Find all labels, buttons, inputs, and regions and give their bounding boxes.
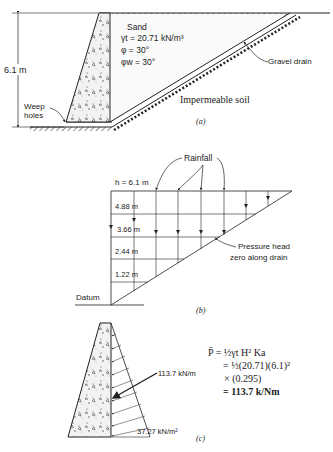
panel-b: Rainfall h = 6.1 m 4.88 m 3.66 m 2.44 m … <box>75 153 292 315</box>
panel-a: 6.1 m Sand γt = 20.71 kN/m³ φ = 30° φw =… <box>3 13 330 131</box>
equation-line-2: = ½(20.71)(6.1)² <box>223 360 290 372</box>
phi-w-label: φw = 30° <box>121 57 155 67</box>
rain-label: Rainfall <box>184 153 212 163</box>
base-pressure-label: 37.27 kN/m² <box>137 427 178 436</box>
height-label: 6.1 m <box>4 65 27 75</box>
retaining-wall <box>68 323 111 437</box>
retaining-wall-diagram: 6.1 m Sand γt = 20.71 kN/m³ φ = 30° φw =… <box>0 0 333 452</box>
drain-label: Gravel drain <box>268 57 312 66</box>
caption-a: (a) <box>196 117 206 126</box>
head-level-label: 4.88 m <box>115 202 138 211</box>
head-level-label: 3.66 m <box>117 225 140 234</box>
equation-line-1: P̄ = ½γt H² Ka <box>208 347 266 358</box>
resultant-label: 113.7 kN/m <box>158 369 196 378</box>
rain-arrow <box>156 158 182 190</box>
gamma-label: γt = 20.71 kN/m³ <box>121 33 184 43</box>
weep-label-1: Weep <box>24 102 45 111</box>
caption-c: (c) <box>196 434 205 443</box>
ground-hatch-bottom <box>30 127 112 131</box>
head-level-label: 1.22 m <box>115 270 138 279</box>
caption-b: (b) <box>196 306 206 315</box>
pressure-label-1: Pressure head <box>238 242 290 251</box>
head-level-label: 2.44 m <box>115 247 138 256</box>
datum-label: Datum <box>76 293 100 302</box>
soil-label: Impermeable soil <box>180 94 250 105</box>
equation-line-3: × (0.295) <box>224 373 261 385</box>
pressure-arrows <box>112 334 149 436</box>
panel-c: 113.7 kN/m 37.27 kN/m² (c) P̄ = ½γt H² K… <box>68 323 290 443</box>
top-head-label: h = 6.1 m <box>115 178 149 187</box>
rain-arrow <box>201 165 203 190</box>
retaining-wall <box>66 13 110 122</box>
rain-arrow <box>178 165 203 190</box>
equation-line-4: = 113.7 k/Nm <box>223 386 280 397</box>
pressure-label-2: zero along drain <box>230 253 287 262</box>
weep-label-2: holes <box>24 111 43 120</box>
phi-label: φ = 30° <box>121 45 149 55</box>
rain-arrow <box>217 158 224 190</box>
material-label: Sand <box>127 22 147 32</box>
